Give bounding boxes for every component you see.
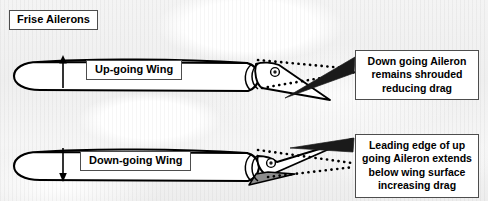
upper-wing-group: [14, 55, 356, 100]
frise-ailerons-diagram: Frise Ailerons Up-going Wing Down-going …: [0, 0, 488, 201]
callout-bottom-line-1: Leading edge of up: [361, 139, 473, 152]
upper-hinge-pivot: [271, 68, 280, 77]
callout-down-going-aileron: Down going Aileron remains shrouded redu…: [355, 50, 479, 100]
callout-top-line-3: reducing drag: [361, 82, 473, 95]
callout-bottom-line-3: below wing surface: [361, 166, 473, 179]
callout-up-going-aileron: Leading edge of up going Aileron extends…: [355, 134, 479, 198]
callout-top-line-2: remains shrouded: [361, 68, 473, 81]
callout-bottom-line-4: increasing drag: [361, 179, 473, 192]
page-title: Frise Ailerons: [9, 10, 98, 30]
callout-bottom-leader: [290, 138, 354, 152]
lower-wing-label: Down-going Wing: [80, 151, 191, 171]
upper-wing-label: Up-going Wing: [86, 60, 182, 80]
lower-hinge-pivot: [267, 159, 276, 168]
callout-bottom-line-2: going Aileron extends: [361, 152, 473, 165]
callout-top-line-1: Down going Aileron: [361, 55, 473, 68]
